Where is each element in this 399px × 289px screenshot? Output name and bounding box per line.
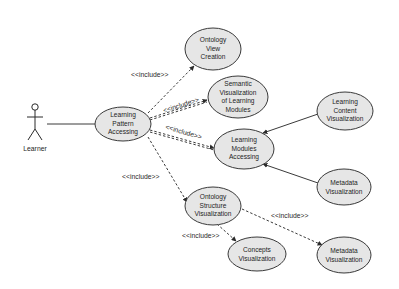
include-label-osv-mv2: <<include>>	[271, 212, 308, 219]
use-case-label-line: Visualization	[326, 188, 363, 195]
use-case-label-line: Visualization	[220, 89, 257, 96]
use-case-diagram: Learner <<include>> <<include>> <<includ…	[0, 0, 399, 289]
use-case-label-line: Metadata	[330, 179, 358, 186]
use-case-label-line: Visualization	[327, 115, 364, 122]
use-case-label-line: Creation	[201, 53, 226, 60]
use-case-label-line: Modules	[232, 145, 258, 152]
use-case-ontology-structure-visualization[interactable]: Ontology Structure Visualization	[185, 187, 241, 225]
use-case-label-line: Modules	[226, 106, 252, 113]
include-label-lpa-ovc: <<include>>	[131, 71, 168, 78]
use-case-label-line: Visualization	[326, 256, 363, 263]
include-osv-cv	[217, 224, 236, 241]
use-case-label-line: Content	[333, 107, 356, 114]
use-case-label-line: Concepts	[243, 246, 272, 254]
use-case-label-line: Ontology	[200, 193, 227, 201]
use-case-metadata-visualization-bottom[interactable]: Metadata Visualization	[317, 237, 371, 273]
use-case-ontology-view-creation[interactable]: Ontology View Creation	[185, 28, 241, 70]
include-lpa-osv	[148, 137, 187, 202]
actor-leg-left-icon	[28, 129, 35, 140]
use-case-learning-pattern-accessing[interactable]: Learning Pattern Accessing	[95, 107, 151, 141]
include-label-osv-cv: <<include>>	[182, 232, 219, 239]
use-case-concepts-visualization[interactable]: Concepts Visualization	[228, 237, 286, 271]
include-label-lpa-svlm: <<include>>	[162, 96, 200, 114]
use-case-label-line: Semantic	[224, 80, 252, 87]
assoc-mv1-lma	[263, 164, 318, 183]
use-case-metadata-visualization-top[interactable]: Metadata Visualization	[317, 169, 371, 205]
use-case-label-line: Ontology	[200, 36, 227, 44]
use-case-label-line: Visualization	[239, 255, 276, 262]
actor-leg-right-icon	[35, 129, 42, 140]
actor-head-icon	[32, 104, 38, 110]
use-case-label-line: Structure	[200, 202, 227, 209]
use-case-label-line: Metadata	[330, 247, 358, 254]
include-label-lpa-lma: <<include>>	[165, 123, 203, 140]
actor-label: Learner	[23, 145, 47, 152]
use-case-label-line: Accessing	[108, 128, 138, 136]
use-case-label-line: Learning	[110, 111, 136, 119]
use-case-semantic-visualization[interactable]: Semantic Visualization of Learning Modul…	[208, 76, 268, 118]
actor-learner[interactable]: Learner	[23, 104, 47, 152]
use-case-label-line: of Learning	[222, 97, 255, 105]
use-case-learning-modules-accessing[interactable]: Learning Modules Accessing	[214, 129, 274, 169]
use-case-learning-content-visualization[interactable]: Learning Content Visualization	[317, 92, 373, 130]
use-case-label-line: Accessing	[229, 153, 259, 161]
use-case-label-line: Learning	[231, 136, 257, 144]
use-case-label-line: Learning	[332, 98, 358, 106]
include-label-lpa-osv: <<include>>	[122, 173, 159, 180]
use-case-label-line: View	[206, 45, 220, 52]
assoc-lcv-lma	[263, 114, 318, 133]
use-case-label-line: Pattern	[112, 120, 134, 127]
use-case-label-line: Visualization	[195, 210, 232, 217]
